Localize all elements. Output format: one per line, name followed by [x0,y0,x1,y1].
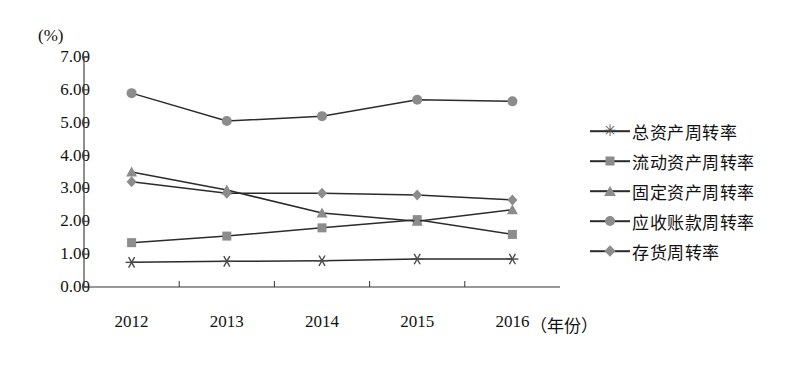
series-asterisk [126,254,519,268]
x-tick-label: 2016 [495,312,529,332]
series-diamond [127,176,518,205]
data-point-marker [508,230,517,239]
legend-item[interactable]: ✳总资产周转率 [590,116,800,146]
legend-item-label: 流动资产周转率 [632,149,755,174]
series-square [127,215,517,247]
data-point-marker [507,194,517,205]
data-point-marker [412,95,422,105]
legend-marker-triangle-icon [590,182,630,200]
chart-legend: ✳总资产周转率流动资产周转率固定资产周转率应收账款周转率存货周转率 [590,116,800,266]
legend-marker-asterisk-icon: ✳ [590,122,630,140]
legend-item[interactable]: 流动资产周转率 [590,146,800,176]
series-circle [127,88,518,126]
legend-item-label: 固定资产周转率 [632,179,755,204]
legend-marker-diamond-icon [590,242,630,260]
legend-item-label: 总资产周转率 [632,119,737,144]
data-point-marker [318,223,327,232]
data-point-marker [126,167,137,177]
data-point-marker [127,88,137,98]
legend-item-label: 应收账款周转率 [632,209,755,234]
x-tick-label: 2012 [115,312,149,332]
data-point-marker [222,116,232,126]
x-tick-label: 2013 [210,312,244,332]
data-point-marker [412,190,422,201]
data-point-marker [127,176,137,187]
legend-marker-circle-icon [590,212,630,230]
data-point-marker [127,238,136,247]
chart-figure: (%) 0.001.002.003.004.005.006.007.00 201… [0,0,808,370]
legend-marker-square-icon [590,152,630,170]
x-tick-label: 2015 [400,312,434,332]
data-point-marker [317,188,327,199]
data-point-marker [507,96,517,106]
legend-item-label: 存货周转率 [632,239,720,264]
data-point-marker [317,111,327,121]
x-axis-title: （年份） [530,312,598,337]
x-tick-label: 2014 [305,312,339,332]
data-point-marker [222,232,231,241]
data-point-marker [507,204,518,214]
legend-item[interactable]: 应收账款周转率 [590,206,800,236]
legend-item[interactable]: 固定资产周转率 [590,176,800,206]
legend-item[interactable]: 存货周转率 [590,236,800,266]
